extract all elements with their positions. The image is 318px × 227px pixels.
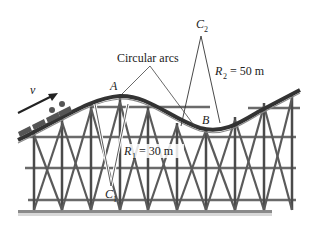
center-2-label: C 2 [196, 17, 208, 34]
svg-text:1: 1 [113, 195, 117, 204]
radius-lines-c2 [181, 36, 220, 126]
roller-coaster-diagram: v Circular arcs A B C 2 C 1 R 2 = 50 m R… [0, 0, 318, 227]
r2-label: R 2 = 50 m [214, 64, 265, 81]
svg-text:= 30 m: = 30 m [136, 144, 174, 158]
svg-text:2: 2 [204, 25, 208, 34]
point-b-label: B [202, 113, 210, 127]
svg-text:= 50 m: = 50 m [227, 64, 265, 78]
point-a-label: A [109, 79, 118, 93]
svg-text:R: R [214, 64, 223, 78]
circular-arcs-label: Circular arcs [117, 51, 179, 65]
r1-label: R 1 = 30 m [122, 144, 184, 161]
svg-text:R: R [123, 144, 132, 158]
ground [18, 210, 272, 216]
velocity-label: v [30, 83, 36, 97]
